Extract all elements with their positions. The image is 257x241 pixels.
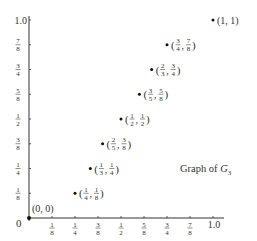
- data-point: (35,58): [138, 87, 169, 103]
- svg-text:3: 3: [165, 221, 169, 229]
- data-point: (12,12): [120, 112, 151, 128]
- svg-text:1: 1: [110, 161, 114, 169]
- chart: 0 181438125834781.0 181438125834781.0 (0…: [0, 0, 257, 241]
- svg-text:2: 2: [16, 120, 20, 128]
- svg-text:): ): [192, 39, 196, 52]
- x-tick: 1.0: [208, 216, 221, 230]
- svg-text:1: 1: [141, 112, 145, 120]
- svg-text:5: 5: [149, 95, 153, 103]
- svg-text:,: ,: [136, 114, 139, 125]
- svg-text:1: 1: [50, 221, 54, 229]
- data-point: (14,18): [74, 186, 105, 202]
- svg-text:8: 8: [16, 95, 20, 103]
- svg-text:8: 8: [16, 45, 20, 53]
- svg-text:8: 8: [122, 144, 126, 152]
- svg-text:4: 4: [110, 169, 114, 177]
- svg-text:(: (: [156, 64, 160, 77]
- svg-text:7: 7: [187, 37, 191, 45]
- x-tick: 78: [188, 216, 193, 237]
- point-marker: [138, 93, 141, 96]
- svg-text:4: 4: [16, 169, 20, 177]
- svg-text:4: 4: [84, 194, 88, 202]
- x-tick: 12: [119, 216, 124, 237]
- point-marker: [212, 19, 215, 22]
- chart-title: Graph of G3: [180, 163, 232, 177]
- point-label: (0, 0): [32, 203, 54, 215]
- point-marker: [101, 142, 104, 145]
- data-point: (34,78): [166, 37, 197, 53]
- svg-text:4: 4: [16, 70, 20, 78]
- point-label: (1, 1): [217, 15, 239, 27]
- svg-text:1: 1: [84, 186, 88, 194]
- svg-text:5: 5: [112, 144, 116, 152]
- svg-text:1: 1: [16, 186, 20, 194]
- svg-text:,: ,: [154, 89, 157, 100]
- svg-text:3: 3: [171, 62, 175, 70]
- data-point: (0, 0): [27, 203, 54, 220]
- x-tick: 34: [165, 216, 170, 237]
- svg-text:3: 3: [122, 136, 126, 144]
- svg-text:): ): [164, 88, 168, 101]
- data-point: (13,14): [89, 161, 120, 177]
- svg-text:3: 3: [149, 87, 153, 95]
- svg-text:8: 8: [187, 45, 191, 53]
- svg-text:): ): [177, 64, 181, 77]
- svg-text:2: 2: [130, 120, 134, 128]
- svg-text:8: 8: [16, 194, 20, 202]
- svg-text:3: 3: [161, 70, 165, 78]
- point-marker: [150, 68, 153, 71]
- svg-text:8: 8: [16, 144, 20, 152]
- point-marker: [74, 192, 77, 195]
- svg-text:3: 3: [100, 169, 104, 177]
- svg-text:1.0: 1.0: [208, 219, 221, 230]
- svg-text:,: ,: [90, 188, 93, 199]
- svg-text:2: 2: [119, 229, 123, 237]
- x-tick: 58: [142, 216, 147, 237]
- svg-text:(: (: [171, 39, 175, 52]
- data-point: (1, 1): [212, 15, 239, 27]
- x-tick: 38: [96, 216, 101, 237]
- x-axis-ticks: 181438125834781.0: [50, 216, 221, 237]
- svg-text:4: 4: [176, 45, 180, 53]
- svg-text:,: ,: [117, 139, 120, 150]
- svg-text:4: 4: [165, 229, 169, 237]
- origin-label: 0: [16, 217, 22, 229]
- svg-text:1: 1: [95, 186, 99, 194]
- svg-text:1: 1: [16, 112, 20, 120]
- svg-text:3: 3: [16, 62, 20, 70]
- point-marker: [120, 118, 123, 121]
- svg-text:8: 8: [159, 95, 163, 103]
- svg-text:1.0: 1.0: [15, 15, 28, 26]
- svg-text:): ): [146, 113, 150, 126]
- x-tick: 18: [50, 216, 55, 237]
- svg-text:4: 4: [73, 229, 77, 237]
- svg-text:8: 8: [142, 229, 146, 237]
- svg-text:): ): [115, 163, 119, 176]
- svg-text:1: 1: [16, 161, 20, 169]
- data-points: (0, 0)(14,18)(13,14)(25,38)(12,12)(35,58…: [27, 15, 239, 221]
- svg-text:8: 8: [50, 229, 54, 237]
- svg-text:1: 1: [119, 221, 123, 229]
- svg-text:1: 1: [100, 161, 104, 169]
- svg-text:1: 1: [73, 221, 77, 229]
- svg-text:(: (: [143, 88, 147, 101]
- svg-text:,: ,: [182, 40, 185, 51]
- svg-text:,: ,: [166, 65, 169, 76]
- svg-text:3: 3: [16, 136, 20, 144]
- point-marker: [166, 43, 169, 46]
- svg-text:2: 2: [161, 62, 165, 70]
- svg-text:3: 3: [96, 221, 100, 229]
- x-tick: 14: [73, 216, 78, 237]
- data-point: (25,38): [101, 136, 132, 152]
- svg-text:7: 7: [188, 221, 192, 229]
- svg-text:5: 5: [159, 87, 163, 95]
- svg-text:8: 8: [188, 229, 192, 237]
- svg-text:1: 1: [130, 112, 134, 120]
- point-marker: [89, 167, 92, 170]
- svg-text:2: 2: [112, 136, 116, 144]
- svg-text:5: 5: [16, 87, 20, 95]
- svg-text:3: 3: [176, 37, 180, 45]
- svg-text:8: 8: [96, 229, 100, 237]
- data-point: (23,34): [150, 62, 181, 78]
- point-marker: [27, 216, 31, 220]
